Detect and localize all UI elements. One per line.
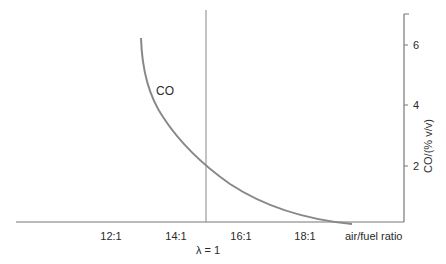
lambda-label: λ = 1 bbox=[196, 244, 220, 256]
chart: 6 4 2 CO/(% v/v) CO 12:1 14:1 16:1 18:1 … bbox=[0, 0, 446, 264]
x-tick-label-12: 12:1 bbox=[100, 230, 121, 242]
x-axis-label: air/fuel ratio bbox=[345, 230, 402, 242]
co-curve bbox=[141, 38, 352, 224]
y-tick-label-4: 4 bbox=[413, 99, 419, 111]
y-tick-label-6: 6 bbox=[413, 39, 419, 51]
x-tick-label-16: 16:1 bbox=[230, 230, 251, 242]
co-series-label: CO bbox=[156, 84, 174, 98]
x-tick-label-14: 14:1 bbox=[165, 230, 186, 242]
y-tick-label-2: 2 bbox=[413, 160, 419, 172]
x-tick-label-18: 18:1 bbox=[294, 230, 315, 242]
y-axis-label: CO/(% v/v) bbox=[422, 119, 434, 173]
